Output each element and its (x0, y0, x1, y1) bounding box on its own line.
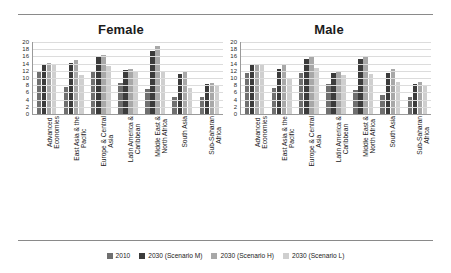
y-axis-tick-label: 2 (234, 104, 237, 110)
y-axis-tick-label: 4 (26, 97, 29, 103)
x-axis-label: East Asia & thePacific (267, 116, 294, 232)
divider-top (18, 14, 433, 15)
bar (396, 82, 400, 114)
bar (287, 78, 291, 114)
bar (150, 51, 154, 114)
y-axis-tick-label: 14 (22, 61, 29, 67)
x-axis-label: Sub-SaharanAfrica (403, 116, 430, 232)
x-axis-label-text: AdvancedEconomies (46, 116, 61, 149)
y-axis-tick-label: 10 (230, 75, 237, 81)
bar (353, 90, 357, 114)
x-axis-label: AdvancedEconomies (240, 116, 267, 232)
legend-swatch-icon (283, 253, 289, 259)
bar (369, 74, 373, 114)
legend-item[interactable]: 2010 (107, 252, 131, 259)
x-axis-label-text: Europe & CentralAsia (308, 116, 323, 167)
x-axis-label-text: East Asia & thePacific (73, 116, 88, 161)
panel-title-female: Female (14, 22, 228, 37)
gridline (33, 107, 223, 108)
gridline (241, 92, 431, 93)
bar (380, 95, 384, 114)
x-axis-label: Middle East &North Africa (141, 116, 168, 232)
gridline (33, 71, 223, 72)
y-axis-tick-label: 4 (234, 97, 237, 103)
legend-swatch-icon (107, 253, 113, 259)
gridline (241, 78, 431, 79)
x-axis-labels-male: AdvancedEconomiesEast Asia & thePacificE… (240, 116, 430, 232)
y-axis-tick-label: 12 (22, 68, 29, 74)
bar (210, 83, 214, 114)
bar (418, 82, 422, 114)
y-axis-tick-label: 20 (230, 39, 237, 45)
y-axis-tick-label: 8 (234, 82, 237, 88)
plot-wrap-male: 02468101214161820 (222, 42, 436, 122)
divider-bottom (18, 240, 433, 241)
bar (178, 74, 182, 114)
x-axis-label: Europe & CentralAsia (294, 116, 321, 232)
x-axis-label: Latin America &Caribbean (321, 116, 348, 232)
x-axis-label-text: Middle East &North Africa (362, 116, 377, 157)
y-axis-tick-label: 6 (26, 89, 29, 95)
gridline (241, 64, 431, 65)
x-axis-label-text: Latin America &Caribbean (127, 116, 142, 162)
bar (118, 83, 122, 114)
legend-label: 2030 (Scenario M) (148, 252, 202, 259)
bar (341, 75, 345, 114)
y-axis-tick-label: 18 (230, 46, 237, 52)
bar (79, 75, 83, 114)
x-axis-label-text: South Asia (181, 116, 188, 148)
legend-label: 2030 (Scenario H) (220, 252, 274, 259)
x-axis-label: Europe & CentralAsia (86, 116, 113, 232)
x-axis-label-text: East Asia & thePacific (281, 116, 296, 161)
x-axis-label: South Asia (376, 116, 403, 232)
y-axis-tick-label: 20 (22, 39, 29, 45)
plot-area-female (32, 42, 223, 115)
x-axis-label-text: Latin America &Caribbean (335, 116, 350, 162)
y-axis-tick-label: 18 (22, 46, 29, 52)
bar (304, 59, 308, 114)
x-axis-label-text: Sub-SaharanAfrica (416, 116, 431, 155)
chart-legend: 20102030 (Scenario M)2030 (Scenario H)20… (0, 252, 451, 259)
y-axis-tick-label: 2 (26, 104, 29, 110)
gridline (241, 49, 431, 50)
gridline (241, 100, 431, 101)
figure-container: Female 02468101214161820 AdvancedEconomi… (0, 0, 451, 273)
y-axis-tick-label: 10 (22, 75, 29, 81)
gridline (33, 100, 223, 101)
plot-wrap-female: 02468101214161820 (14, 42, 228, 122)
chart-panels: Female 02468101214161820 AdvancedEconomi… (0, 22, 451, 234)
x-axis-label-text: Europe & CentralAsia (100, 116, 115, 167)
y-axis-tick-label: 14 (230, 61, 237, 67)
y-axis-tick-label: 0 (26, 111, 29, 117)
gridline (241, 71, 431, 72)
chart-panel-female: Female 02468101214161820 AdvancedEconomi… (14, 22, 228, 234)
y-axis-male: 02468101214161820 (222, 42, 238, 114)
plot-area-male (240, 42, 431, 115)
gridline (241, 107, 431, 108)
gridline (33, 64, 223, 65)
y-axis-tick-label: 16 (230, 53, 237, 59)
gridline (241, 56, 431, 57)
y-axis-tick-label: 16 (22, 53, 29, 59)
x-axis-label: East Asia & thePacific (59, 116, 86, 232)
gridline (33, 42, 223, 43)
bar (358, 59, 362, 114)
panel-title-male: Male (222, 22, 436, 37)
x-axis-label: Middle East &North Africa (349, 116, 376, 232)
x-axis-label: Sub-SaharanAfrica (195, 116, 222, 232)
legend-label: 2010 (116, 252, 131, 259)
y-axis-tick-label: 12 (230, 68, 237, 74)
chart-panel-male: Male 02468101214161820 AdvancedEconomies… (222, 22, 436, 234)
gridline (33, 85, 223, 86)
legend-swatch-icon (211, 253, 217, 259)
x-axis-labels-female: AdvancedEconomiesEast Asia & thePacificE… (32, 116, 222, 232)
legend-item[interactable]: 2030 (Scenario L) (283, 252, 344, 259)
x-axis-label-text: South Asia (389, 116, 396, 148)
y-axis-tick-label: 6 (234, 89, 237, 95)
x-axis-label: South Asia (168, 116, 195, 232)
legend-item[interactable]: 2030 (Scenario M) (139, 252, 202, 259)
x-axis-label-text: AdvancedEconomies (254, 116, 269, 149)
x-axis-label: Latin America &Caribbean (113, 116, 140, 232)
legend-label: 2030 (Scenario L) (292, 252, 344, 259)
legend-item[interactable]: 2030 (Scenario H) (211, 252, 274, 259)
